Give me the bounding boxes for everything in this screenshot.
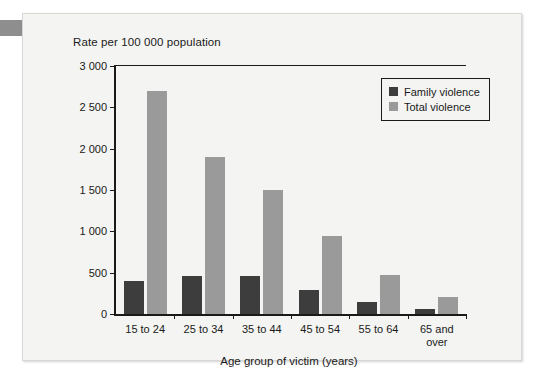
legend-label: Family violence — [404, 86, 480, 98]
chart-panel: Rate per 100 000 population 05001 0001 5… — [22, 13, 522, 361]
corner-tab — [0, 20, 22, 36]
chart-title: Rate per 100 000 population — [73, 36, 221, 48]
y-axis-tick-label: 500 — [89, 267, 107, 279]
y-axis-tick-label: 1 500 — [79, 184, 107, 196]
legend-item-family-violence: Family violence — [389, 84, 480, 99]
bar-family-violence — [299, 290, 319, 314]
bar-total-violence — [147, 91, 167, 314]
y-axis-tick-label: 0 — [101, 308, 107, 320]
y-axis-tick — [110, 66, 116, 67]
chart-legend: Family violence Total violence — [381, 78, 490, 121]
x-axis-tick — [349, 314, 350, 319]
y-axis-tick-label: 1 000 — [79, 225, 107, 237]
bar-family-violence — [124, 281, 144, 314]
legend-item-total-violence: Total violence — [389, 99, 480, 114]
bar-total-violence — [322, 236, 342, 314]
y-axis-tick-label: 3 000 — [79, 60, 107, 72]
x-axis-tick — [408, 314, 409, 319]
y-axis-tick — [110, 190, 116, 191]
y-axis-tick — [110, 231, 116, 232]
x-axis-tick — [174, 314, 175, 319]
x-axis-title: Age group of victim (years) — [220, 355, 357, 367]
bar-total-violence — [205, 157, 225, 314]
y-axis-tick — [110, 314, 116, 315]
y-axis-tick-label: 2 000 — [79, 143, 107, 155]
y-axis-tick — [110, 149, 116, 150]
bar-family-violence — [415, 309, 435, 314]
x-axis-tick — [291, 314, 292, 319]
y-axis-tick — [110, 273, 116, 274]
x-axis-category-label: 65 and over — [402, 323, 472, 349]
legend-swatch-icon — [389, 87, 398, 96]
x-axis-tick — [233, 314, 234, 319]
legend-label: Total violence — [404, 101, 471, 113]
legend-swatch-icon — [389, 102, 398, 111]
bar-total-violence — [438, 297, 458, 314]
bar-family-violence — [240, 276, 260, 314]
bar-family-violence — [182, 276, 202, 314]
y-axis-tick — [110, 107, 116, 108]
bar-family-violence — [357, 302, 377, 314]
bar-total-violence — [263, 190, 283, 314]
x-axis-tick — [466, 314, 467, 319]
bar-total-violence — [380, 275, 400, 314]
y-axis-tick-label: 2 500 — [79, 101, 107, 113]
